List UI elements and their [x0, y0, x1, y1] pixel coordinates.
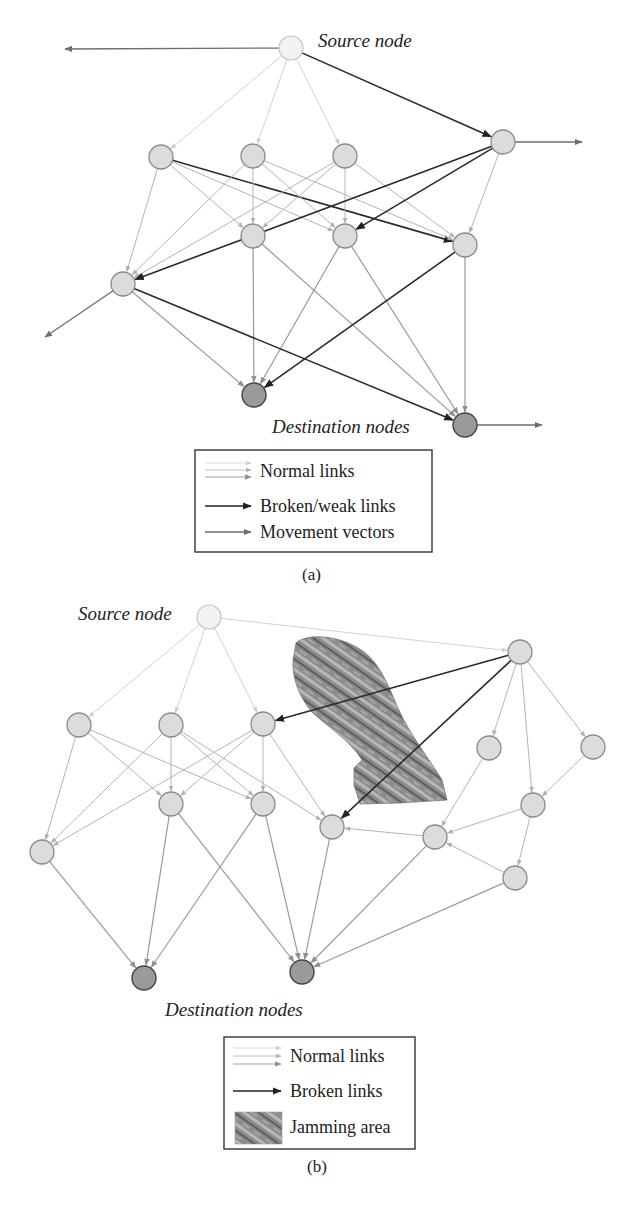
normal-link-b-S-A1: [89, 625, 200, 717]
source-node-label: Source node: [318, 30, 412, 51]
network-node-b-R1: [477, 736, 501, 760]
destination-node-b-D1: [132, 966, 156, 990]
legend-broken-links-label: Broken/weak links: [260, 496, 395, 516]
legend-a: Normal links Broken/weak links Movement …: [195, 450, 432, 552]
normal-link-a-A1-B1: [170, 165, 243, 228]
network-node-a-R: [491, 130, 515, 154]
normal-link-a-B1-D1: [253, 248, 254, 382]
normal-link-a-A3-L: [134, 162, 334, 278]
caption-b: (b): [307, 1157, 327, 1176]
destination-node-b-D2: [290, 960, 314, 984]
caption-a: (a): [302, 565, 321, 584]
normal-link-a-L-D1: [132, 292, 244, 387]
source-node-label-b: Source node: [78, 603, 172, 624]
network-node-b-C: [320, 815, 344, 839]
legend-jamming-area-icon: [235, 1112, 282, 1144]
legend-movement-vectors-label: Movement vectors: [260, 522, 394, 542]
normal-link-a-B2-D2: [351, 246, 458, 414]
panel-a-movement-vectors: [45, 48, 582, 425]
network-node-b-B1: [159, 792, 183, 816]
normal-link-b-R-R3: [521, 664, 532, 792]
panel-a-network: Source node Destination nodes Normal lin…: [45, 30, 582, 584]
network-node-b-R4: [423, 825, 447, 849]
normal-link-b-B2-D1: [151, 814, 256, 967]
normal-link-b-S-A3: [214, 628, 257, 713]
movement-vector-L: [45, 291, 113, 337]
panel-b-network: Source node Destination nodes Normal lin…: [30, 603, 605, 1176]
legend-normal-links-label: Normal links: [260, 461, 355, 481]
normal-link-b-A3-C: [270, 734, 325, 816]
normal-link-b-A3-L: [53, 730, 252, 845]
destination-node-a-D2: [453, 413, 477, 437]
network-node-a-L: [111, 272, 135, 296]
source-node-a-S: [279, 36, 303, 60]
legend-broken-links-label-b: Broken links: [290, 1081, 383, 1101]
network-node-b-A2: [159, 713, 183, 737]
normal-link-b-R5-D2: [314, 883, 504, 967]
source-node-b-S: [197, 605, 221, 629]
legend-normal-links-label-b: Normal links: [290, 1046, 385, 1066]
normal-link-b-R1-R4: [442, 758, 483, 826]
broken-link-a-A1-B3: [173, 160, 453, 241]
normal-link-b-R3-R5: [518, 817, 530, 866]
broken-link-a-R-L: [135, 146, 492, 279]
destination-nodes-label-b: Destination nodes: [164, 999, 303, 1020]
normal-link-b-B1-D1: [146, 816, 169, 965]
network-node-b-R2: [581, 735, 605, 759]
destination-node-a-D1: [242, 383, 266, 407]
normal-link-b-A3-B1: [181, 732, 254, 796]
network-node-a-B2: [333, 224, 357, 248]
broken-link-a-L-D2: [134, 289, 453, 420]
network-node-b-R: [508, 640, 532, 664]
normal-link-b-B2-D2: [266, 816, 299, 960]
network-node-a-A3: [333, 144, 357, 168]
normal-link-a-R-B3: [469, 153, 498, 233]
destination-nodes-label: Destination nodes: [271, 416, 410, 437]
normal-link-b-R3-R4: [447, 809, 521, 833]
normal-link-b-R5-R4: [447, 843, 505, 873]
network-node-a-B1: [241, 224, 265, 248]
network-node-a-A1: [149, 145, 173, 169]
legend-b: Normal links Broken links Jamming area: [224, 1037, 415, 1149]
normal-link-b-R2-R3: [542, 755, 584, 796]
normal-link-a-S-A3: [296, 59, 339, 145]
network-node-b-A3: [251, 712, 275, 736]
panel-a-links: [127, 53, 499, 420]
network-node-a-B3: [453, 233, 477, 257]
jamming-area: [293, 637, 447, 804]
network-node-b-A1: [67, 713, 91, 737]
normal-link-a-S-A1: [171, 56, 282, 149]
normal-link-b-R-R2: [527, 662, 585, 737]
normal-link-a-A1-L: [127, 168, 158, 271]
normal-link-b-R4-C: [345, 828, 423, 836]
broken-link-a-S-R: [302, 53, 491, 137]
normal-link-b-L-D1: [50, 861, 136, 968]
normal-link-b-A1-B1: [88, 733, 161, 796]
normal-link-b-A1-L: [46, 737, 76, 840]
network-node-b-R5: [503, 866, 527, 890]
normal-link-b-B1-D2: [178, 813, 294, 961]
normal-link-b-A2-L: [51, 733, 162, 842]
normal-link-b-S-R: [221, 618, 507, 650]
network-node-a-A2: [241, 144, 265, 168]
figure: Source node Destination nodes Normal lin…: [0, 0, 640, 1229]
normal-link-b-C-D2: [305, 839, 330, 960]
legend-jamming-area-label: Jamming area: [290, 1117, 390, 1137]
network-node-b-B2: [251, 792, 275, 816]
normal-link-b-R4-D2: [311, 846, 426, 963]
movement-vector-S: [65, 48, 279, 49]
network-node-b-R3: [521, 793, 545, 817]
network-node-b-L: [30, 840, 54, 864]
